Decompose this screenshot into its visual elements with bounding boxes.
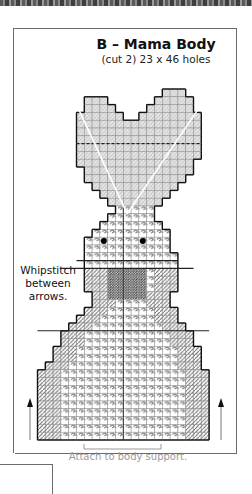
attach-bracket [84,444,161,449]
eye-dot [140,238,146,244]
eye-dot [101,238,107,244]
arrow-up-icon [27,398,33,440]
arrow-up-icon [218,398,224,440]
attach-note: Attach to body support. [40,451,216,462]
